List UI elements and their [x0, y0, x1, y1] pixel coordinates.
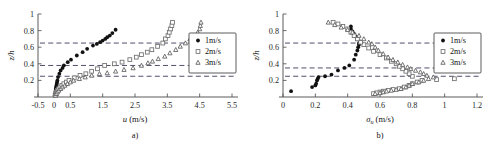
y-tick-label-4: 1 — [275, 10, 279, 19]
data-point-2ms — [140, 53, 144, 57]
data-point-3ms — [174, 47, 178, 51]
data-point-3ms — [391, 57, 395, 61]
data-point-3ms — [413, 68, 417, 72]
data-point-1ms — [56, 75, 60, 79]
legend: 1m/s2m/s3m/s — [189, 33, 236, 73]
data-point-3ms — [178, 44, 182, 48]
y-tick-label-1: 0.4 — [269, 60, 279, 69]
data-point-1ms — [441, 39, 445, 43]
data-point-3ms — [156, 57, 160, 61]
data-point-2ms — [441, 50, 445, 54]
data-point-1ms — [354, 53, 358, 57]
x-axis-title-unit: (m/s) — [373, 114, 393, 124]
data-point-1ms — [336, 69, 340, 73]
data-point-3ms — [381, 52, 385, 56]
plot-area: 0.20.40.60.81-0.500.51.52.53.54.55.5z/hu… — [6, 10, 238, 140]
y-tick-label-3: 0.8 — [269, 27, 279, 36]
x-tick-label-2: 0.4 — [343, 101, 353, 110]
legend-label-0: 1m/s — [450, 36, 466, 45]
data-point-3ms — [401, 62, 405, 66]
y-axis-title: z/h — [6, 50, 16, 61]
data-point-3ms — [90, 73, 94, 77]
x-tick-label-4: 0.8 — [407, 101, 417, 110]
data-point-2ms — [128, 58, 132, 62]
data-point-1ms — [196, 39, 200, 43]
data-point-1ms — [69, 58, 73, 62]
data-point-3ms — [183, 41, 187, 45]
data-point-2ms — [156, 44, 160, 48]
data-point-2ms — [84, 72, 88, 76]
y-tick-label-4: 1 — [30, 10, 34, 19]
legend-label-2: 3m/s — [205, 58, 221, 67]
data-point-2ms — [96, 67, 100, 71]
data-point-3ms — [367, 40, 371, 44]
data-point-1ms — [85, 47, 89, 51]
data-point-3ms — [357, 33, 361, 37]
x-tick-label-2: 0.5 — [65, 101, 75, 110]
data-point-3ms — [396, 60, 400, 64]
series-1ms — [289, 25, 362, 94]
data-point-3ms — [150, 59, 154, 63]
data-point-1ms — [95, 42, 99, 46]
data-point-3ms — [199, 20, 203, 24]
data-point-1ms — [56, 79, 60, 83]
series-3ms — [326, 20, 435, 95]
data-point-1ms — [310, 85, 314, 89]
data-point-1ms — [57, 72, 61, 76]
data-point-3ms — [131, 66, 135, 70]
data-point-3ms — [431, 75, 435, 79]
y-tick-label-2: 0.6 — [24, 43, 34, 52]
data-point-2ms — [367, 46, 371, 50]
data-point-2ms — [452, 77, 456, 81]
panel-caption: b) — [377, 131, 384, 140]
data-point-1ms — [62, 64, 66, 68]
x-tick-label-3: 0.6 — [375, 101, 385, 110]
data-point-1ms — [343, 66, 347, 70]
figure-container: 0.20.40.60.81-0.500.51.52.53.54.55.5z/hu… — [0, 0, 490, 149]
data-point-1ms — [110, 31, 114, 35]
data-point-3ms — [105, 71, 109, 75]
x-tick-label-3: 1.5 — [98, 101, 108, 110]
legend-label-2: 3m/s — [450, 58, 466, 67]
data-point-3ms — [97, 72, 101, 76]
data-point-1ms — [114, 28, 118, 32]
data-point-1ms — [347, 64, 351, 68]
legend-label-0: 1m/s — [205, 36, 221, 45]
data-point-1ms — [75, 54, 79, 58]
data-point-3ms — [114, 69, 118, 73]
data-point-3ms — [139, 63, 143, 67]
panel-caption: a) — [132, 131, 139, 140]
data-point-1ms — [330, 73, 334, 77]
data-point-2ms — [134, 55, 138, 59]
data-point-2ms — [171, 20, 175, 24]
data-point-2ms — [196, 50, 200, 54]
data-point-3ms — [326, 20, 330, 24]
data-point-2ms — [336, 22, 340, 26]
x-tick-label-6: 4.5 — [195, 101, 205, 110]
y-tick-label-2: 0.6 — [269, 43, 279, 52]
x-tick-label-5: 1 — [443, 101, 447, 110]
legend-label-1: 2m/s — [450, 47, 466, 56]
x-tick-label-0: -0.5 — [32, 101, 45, 110]
data-point-1ms — [91, 44, 95, 48]
data-point-3ms — [122, 67, 126, 71]
x-axis-title-unit: (m/s) — [127, 114, 147, 124]
data-point-3ms — [163, 54, 167, 58]
y-tick-label-0: 0.2 — [269, 76, 279, 85]
data-point-1ms — [66, 60, 70, 64]
x-tick-label-0: 0 — [281, 101, 285, 110]
x-tick-label-1: 0 — [52, 101, 56, 110]
x-tick-label-6: 1.2 — [472, 101, 482, 110]
data-point-1ms — [289, 89, 293, 93]
panel-a: 0.20.40.60.81-0.500.51.52.53.54.55.5z/hu… — [0, 0, 245, 149]
data-point-1ms — [81, 50, 85, 54]
x-axis-title: u (m/s) — [123, 114, 148, 124]
panel-b-plot: 0.20.40.60.8100.20.40.60.811.2z/hσu (m/s… — [245, 0, 490, 149]
x-tick-label-4: 2.5 — [130, 101, 140, 110]
data-point-2ms — [120, 60, 124, 64]
data-point-1ms — [355, 49, 359, 53]
data-point-1ms — [323, 74, 327, 78]
data-point-3ms — [418, 70, 422, 74]
y-axis-title: z/h — [251, 50, 261, 61]
y-tick-label-3: 0.8 — [24, 27, 34, 36]
